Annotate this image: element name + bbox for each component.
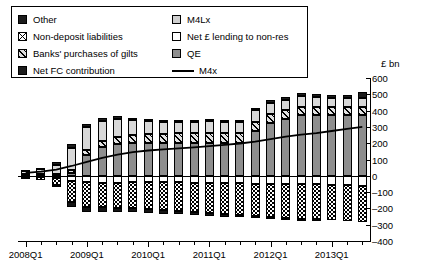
legend-swatch-solid-black-icon — [18, 66, 27, 75]
x-axis-tick-mark — [347, 241, 348, 245]
x-axis-tick-mark — [332, 241, 333, 247]
legend-item-left-1: Non-deposit liabilities — [18, 28, 138, 45]
bar-segment-nonres — [266, 176, 275, 184]
bar-segment-qe — [358, 115, 367, 176]
bar-segment-other — [113, 116, 122, 118]
bar-segment-nonres — [190, 176, 199, 183]
bar-segment-nondep — [251, 184, 260, 217]
bar-2012Q4 — [312, 78, 321, 241]
bar-segment-nondep — [312, 184, 321, 219]
bar-segment-nondep — [144, 182, 153, 209]
bar-segment-nonres — [358, 176, 367, 186]
bar-segment-netfc — [113, 208, 122, 213]
legend-item-label: Net £ lending to non-res — [187, 31, 288, 42]
y-axis-tick-mark — [366, 241, 371, 242]
bar-2012Q3 — [297, 78, 306, 241]
bar-segment-other — [343, 95, 352, 98]
bar-segment-m4lx — [113, 119, 122, 137]
bar-segment-nondep — [159, 182, 168, 210]
bar-2010Q2 — [159, 78, 168, 241]
bar-segment-netfc — [297, 219, 306, 221]
y-axis-tick-mark — [366, 225, 371, 226]
bar-segment-m4lx — [312, 97, 321, 107]
bar-2013Q1 — [327, 78, 336, 241]
y-axis-tick-label: –100 — [372, 188, 393, 197]
bar-segment-gilts — [343, 107, 352, 114]
bar-segment-m4lx — [343, 98, 352, 107]
bar-2008Q2 — [36, 78, 45, 241]
bar-segment-nondep — [98, 183, 107, 207]
bar-segment-m4lx — [220, 122, 229, 133]
bar-segment-gilts — [190, 133, 199, 143]
bar-segment-other — [251, 108, 260, 110]
x-axis-tick-mark — [362, 241, 363, 245]
x-axis-tick-label: 2009Q1 — [70, 249, 104, 260]
bar-segment-netfc — [220, 214, 229, 216]
bar-segment-gilts — [205, 133, 214, 143]
bar-segment-nonres — [297, 176, 306, 184]
bar-segment-other — [36, 168, 45, 170]
x-axis-tick-mark — [133, 241, 134, 245]
bar-segment-nondep — [235, 183, 244, 215]
bar-segment-qe — [98, 147, 107, 176]
bar-segment-gilts — [144, 134, 153, 143]
bar-segment-m4lx — [128, 120, 137, 135]
bar-segment-nonres — [251, 176, 260, 184]
bar-2011Q2 — [220, 78, 229, 241]
bar-2009Q4 — [128, 78, 137, 241]
x-axis-tick-label: 2012Q1 — [254, 249, 288, 260]
y-axis-tick-mark — [366, 143, 371, 144]
bar-segment-m4lx — [358, 98, 367, 107]
bar-segment-gilts — [159, 134, 168, 143]
bar-segment-m4lx — [190, 122, 199, 133]
bar-segment-nonres — [113, 176, 122, 183]
bar-segment-netfc — [281, 218, 290, 220]
y-axis-tick-label: 600 — [372, 74, 388, 83]
legend-item-right-1: Net £ lending to non-res — [172, 28, 288, 45]
x-axis-tick-mark — [255, 241, 256, 245]
x-axis-tick-label: 2011Q1 — [193, 249, 226, 260]
legend-item-label: QE — [187, 48, 201, 59]
bar-segment-netfc — [52, 185, 61, 187]
bar-segment-other — [327, 95, 336, 98]
bar-segment-netfc — [266, 217, 275, 219]
legend-swatch-diag-icon — [18, 49, 27, 58]
x-axis-tick-mark — [240, 241, 241, 245]
bar-segment-netfc — [205, 213, 214, 216]
bar-2011Q4 — [251, 78, 260, 241]
bar-segment-qe — [235, 143, 244, 176]
bar-segment-qe — [327, 115, 336, 176]
bar-segment-other — [297, 93, 306, 96]
bar-segment-other — [159, 120, 168, 122]
y-axis-tick-label: –200 — [372, 204, 393, 213]
bar-segment-qe — [281, 119, 290, 176]
bar-segment-netfc — [190, 212, 199, 215]
y-axis-tick-mark — [366, 160, 371, 161]
bar-segment-gilts — [98, 141, 107, 147]
bar-2009Q3 — [113, 78, 122, 241]
bar-segment-nondep — [174, 182, 183, 211]
legend-item-right-3: M4x — [172, 62, 288, 79]
bar-segment-other — [52, 162, 61, 165]
bar-segment-other — [281, 97, 290, 100]
y-axis-tick-label: –400 — [372, 237, 393, 246]
bar-segment-nondep — [82, 182, 91, 206]
bar-segment-m4lx — [297, 96, 306, 106]
plot-area — [18, 78, 370, 238]
bar-segment-nondep — [128, 182, 137, 208]
x-axis-tick-mark — [271, 241, 272, 247]
bar-segment-nondep — [67, 181, 76, 202]
bar-segment-m4lx — [266, 103, 275, 114]
bar-segment-qe — [144, 143, 153, 176]
bar-segment-qe — [82, 155, 91, 176]
legend-item-left-0: Other — [18, 11, 138, 28]
bar-2008Q4 — [67, 78, 76, 241]
x-axis-tick-mark — [41, 241, 42, 245]
bar-segment-m4lx — [251, 110, 260, 121]
bar-2009Q2 — [98, 78, 107, 241]
x-axis-tick-mark — [117, 241, 118, 245]
legend-swatch-white-icon — [172, 32, 181, 41]
bar-segment-nondep — [220, 183, 229, 214]
bar-segment-netfc — [235, 215, 244, 217]
y-axis-tick-label: 200 — [372, 139, 388, 148]
